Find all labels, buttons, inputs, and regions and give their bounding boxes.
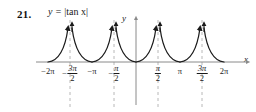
tick-text: −π — [87, 66, 96, 76]
tick-fraction: 3π2 — [67, 64, 78, 82]
x-tick-label: −2π — [41, 66, 54, 76]
x-tick-label: −3π2 — [62, 64, 77, 82]
curve-branch-7 — [180, 28, 200, 62]
branch-arrow-stems — [72, 24, 204, 32]
curve-branch-6 — [160, 28, 180, 62]
curve-branch-2 — [72, 28, 92, 62]
x-tick-label: 2π — [220, 66, 229, 76]
tick-denominator: 2 — [155, 74, 161, 83]
tick-text: π — [178, 66, 182, 76]
curve-branch-5 — [136, 28, 156, 62]
curve-branch-4 — [116, 28, 136, 62]
x-tick-label: −π — [87, 66, 96, 76]
tick-denominator: 2 — [67, 74, 78, 83]
x-tick-label: −π2 — [108, 64, 119, 82]
tick-fraction: π2 — [155, 64, 161, 82]
tick-text: −2π — [41, 66, 54, 76]
x-tick-label: π2 — [155, 64, 161, 82]
curve-branch-8 — [204, 28, 224, 62]
tick-denominator: 2 — [197, 74, 208, 83]
curve-branch-1 — [48, 28, 68, 62]
graph-canvas — [0, 0, 256, 112]
curve-branch-3 — [92, 28, 112, 62]
tick-denominator: 2 — [113, 74, 119, 83]
x-tick-label: π — [178, 66, 182, 76]
tick-fraction: π2 — [113, 64, 119, 82]
tick-fraction: 3π2 — [197, 64, 208, 82]
tick-text: 2π — [220, 66, 229, 76]
x-tick-label: 3π2 — [197, 64, 208, 82]
